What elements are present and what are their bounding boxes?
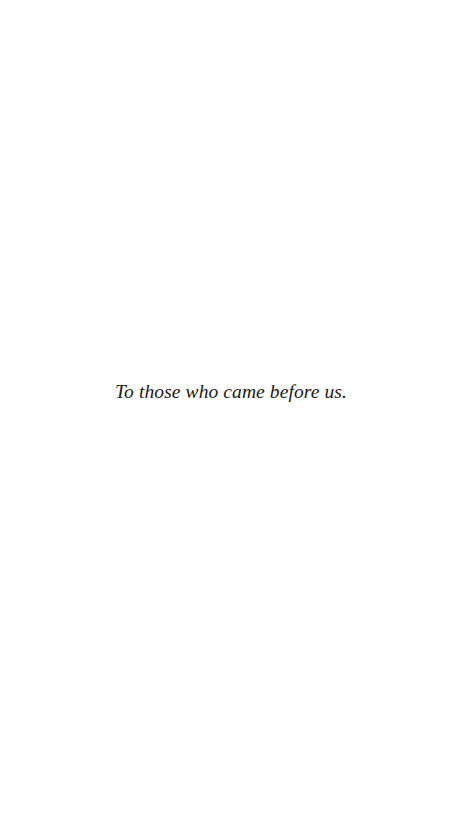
book-page: To those who came before us. [0,0,462,815]
dedication-text: To those who came before us. [0,380,462,404]
